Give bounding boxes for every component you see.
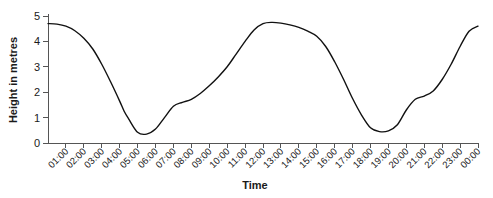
y-tick-label: 0 — [34, 137, 40, 149]
y-tick-label: 4 — [34, 35, 40, 47]
tide-height-chart: Height in metres 012345 01:0002:0003:000… — [0, 0, 493, 198]
y-tick-label: 5 — [34, 10, 40, 22]
y-tick-label: 2 — [34, 86, 40, 98]
chart-plot-area: Height in metres 012345 01:0002:0003:000… — [0, 0, 493, 198]
x-tick-label: 10:00 — [207, 146, 232, 171]
tide-curve-line — [48, 22, 478, 134]
y-tick-label: 1 — [34, 112, 40, 124]
x-axis-ticks — [66, 143, 478, 148]
y-axis-title: Height in metres — [7, 37, 19, 123]
x-axis-title: Time — [242, 179, 267, 191]
y-axis-ticks: 012345 — [34, 10, 48, 149]
y-tick-label: 3 — [34, 61, 40, 73]
x-axis-tick-labels: 01:0002:0003:0004:0005:0006:0007:0008:00… — [46, 146, 483, 171]
x-tick-label: 00:00 — [458, 146, 483, 171]
